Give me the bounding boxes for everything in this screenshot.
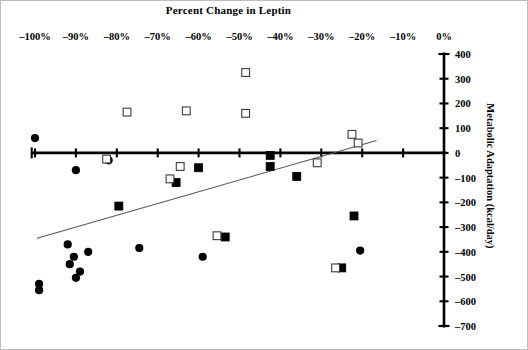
data-point-filled-square-6 bbox=[293, 172, 301, 180]
data-point-filled-circle-10 bbox=[72, 274, 80, 282]
data-point-open-square-5 bbox=[213, 232, 221, 240]
data-point-filled-square-3 bbox=[221, 233, 229, 241]
data-point-filled-square-5 bbox=[266, 163, 274, 171]
data-point-filled-square-7 bbox=[350, 212, 358, 220]
y-axis-title: Metabolic Adaptation (kcal/day) bbox=[485, 103, 496, 248]
trendline-group bbox=[37, 141, 376, 239]
data-point-open-square-7 bbox=[242, 109, 250, 117]
data-point-filled-square-0 bbox=[115, 202, 123, 210]
data-point-open-square-10 bbox=[354, 139, 362, 147]
data-point-filled-circle-4 bbox=[70, 253, 78, 261]
data-point-filled-circle-1 bbox=[72, 166, 80, 174]
chart-canvas bbox=[1, 1, 528, 350]
data-point-open-square-4 bbox=[182, 107, 190, 115]
data-point-filled-circle-11 bbox=[135, 244, 143, 252]
data-point-filled-square-4 bbox=[266, 151, 274, 159]
data-point-open-square-8 bbox=[313, 159, 321, 167]
data-point-open-square-11 bbox=[332, 264, 340, 272]
axes-group bbox=[32, 53, 450, 328]
data-points-group bbox=[31, 69, 364, 295]
data-point-filled-circle-13 bbox=[356, 246, 364, 254]
data-point-open-square-2 bbox=[166, 175, 174, 183]
data-point-open-square-0 bbox=[103, 155, 111, 163]
data-point-filled-circle-3 bbox=[64, 240, 72, 248]
data-point-open-square-6 bbox=[242, 69, 250, 77]
data-point-filled-circle-7 bbox=[84, 248, 92, 256]
data-point-filled-circle-5 bbox=[66, 260, 74, 268]
data-point-open-square-1 bbox=[123, 108, 131, 116]
data-point-filled-circle-12 bbox=[199, 253, 207, 261]
data-point-open-square-3 bbox=[176, 163, 184, 171]
data-point-filled-circle-0 bbox=[31, 134, 39, 142]
trendline bbox=[37, 141, 376, 239]
data-point-filled-square-2 bbox=[195, 164, 203, 172]
data-point-open-square-9 bbox=[348, 130, 356, 138]
data-point-filled-circle-9 bbox=[35, 286, 43, 294]
chart-figure: Percent Change in Leptin –100%–90%–80%–7… bbox=[0, 0, 528, 350]
